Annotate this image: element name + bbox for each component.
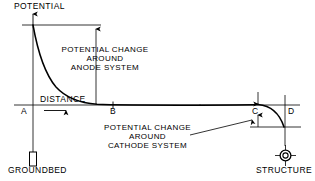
- distance-axis-label: DISTANCE: [40, 95, 86, 105]
- diagram-graphics: [0, 0, 315, 181]
- point-b-label: B: [110, 107, 116, 117]
- point-a-label: A: [21, 107, 27, 117]
- pipe-cross-section-icon: [275, 145, 296, 166]
- point-d-label: D: [288, 107, 295, 117]
- potential-profile-diagram: POTENTIAL DISTANCE A B C D POTENTIAL CHA…: [0, 0, 315, 181]
- point-c-label: C: [252, 107, 259, 117]
- structure-label: STRUCTURE: [256, 166, 312, 176]
- groundbed-label: GROUNDBED: [8, 166, 67, 176]
- anode-system-annotation: POTENTIAL CHANGE AROUND ANODE SYSTEM: [55, 46, 155, 73]
- remote-earth-flat-segment: [200, 105, 258, 106]
- cathode-potential-curve: [258, 105, 284, 127]
- cathode-system-annotation: POTENTIAL CHANGE AROUND CATHODE SYSTEM: [90, 124, 205, 151]
- potential-axis-label: POTENTIAL: [14, 2, 65, 12]
- groundbed-anode-icon: [30, 152, 37, 166]
